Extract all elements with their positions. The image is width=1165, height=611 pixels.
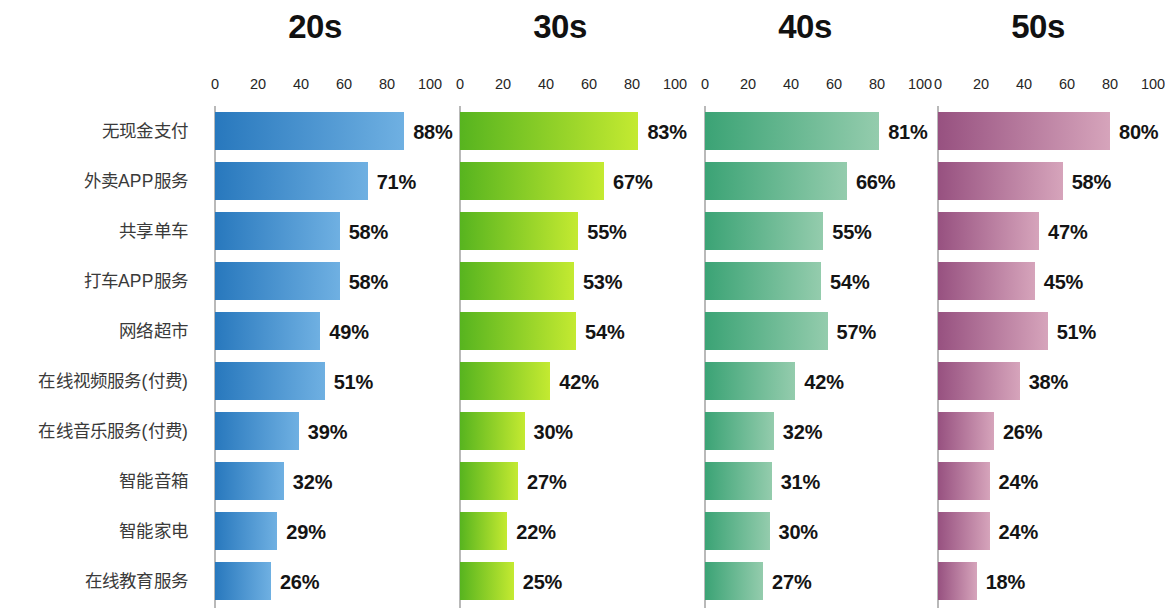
bar — [460, 162, 604, 200]
bar-value-label: 27% — [772, 571, 811, 594]
x-axis-tick: 80 — [379, 76, 395, 92]
bar — [705, 362, 795, 400]
x-axis-tick: 40 — [293, 76, 309, 92]
x-axis-tick: 80 — [1102, 76, 1118, 92]
panel-title-30s: 30s — [445, 8, 675, 46]
bar-value-label: 29% — [286, 521, 325, 544]
bar — [460, 512, 507, 550]
bar — [460, 112, 638, 150]
x-axis-tick: 40 — [783, 76, 799, 92]
bar — [215, 512, 277, 550]
age-group-panel-50s: 50s02040608010080%58%47%45%51%38%26%24%2… — [923, 0, 1158, 611]
bar — [705, 562, 763, 600]
bar-value-label: 30% — [534, 421, 573, 444]
bar-value-label: 54% — [830, 271, 869, 294]
category-label: 在线教育服务 — [0, 571, 188, 591]
bar — [215, 362, 325, 400]
bar — [705, 112, 879, 150]
bar-value-label: 83% — [647, 121, 686, 144]
age-group-panel-20s: 20s02040608010088%71%58%58%49%51%39%32%2… — [200, 0, 445, 611]
category-label: 在线音乐服务(付费) — [0, 421, 188, 441]
category-label: 在线视频服务(付费) — [0, 371, 188, 391]
x-axis-tick: 80 — [624, 76, 640, 92]
bar — [215, 162, 368, 200]
panel-title-20s: 20s — [200, 8, 430, 46]
bar-value-label: 24% — [999, 471, 1038, 494]
bar-value-label: 71% — [377, 171, 416, 194]
bar — [938, 562, 977, 600]
bar — [938, 412, 994, 450]
bar-value-label: 54% — [585, 321, 624, 344]
x-axis-tick: 80 — [869, 76, 885, 92]
category-label-column: 无现金支付外卖APP服务共享单车打车APP服务网络超市在线视频服务(付费)在线音… — [0, 0, 200, 611]
bar-value-label: 58% — [349, 271, 388, 294]
bar-value-label: 27% — [527, 471, 566, 494]
bar-value-label: 42% — [559, 371, 598, 394]
bar-value-label: 24% — [999, 521, 1038, 544]
bar-value-label: 39% — [308, 421, 347, 444]
x-axis-tick: 40 — [1016, 76, 1032, 92]
bar-value-label: 42% — [804, 371, 843, 394]
bar — [215, 562, 271, 600]
x-axis-30s: 020406080100 — [445, 76, 690, 96]
category-label: 打车APP服务 — [0, 271, 188, 291]
bar-value-label: 51% — [1057, 321, 1096, 344]
x-axis-tick: 20 — [740, 76, 756, 92]
bar-value-label: 66% — [856, 171, 895, 194]
bar — [938, 162, 1063, 200]
panel-title-50s: 50s — [923, 8, 1153, 46]
bar-value-label: 22% — [516, 521, 555, 544]
bar — [938, 362, 1020, 400]
bar-value-label: 57% — [837, 321, 876, 344]
bar — [705, 212, 823, 250]
age-group-panel-40s: 40s02040608010081%66%55%54%57%42%32%31%3… — [690, 0, 923, 611]
bar — [938, 212, 1039, 250]
bar — [938, 262, 1035, 300]
bar-value-label: 67% — [613, 171, 652, 194]
x-axis-tick: 0 — [934, 76, 942, 92]
x-axis-tick: 40 — [538, 76, 554, 92]
x-axis-tick: 60 — [1059, 76, 1075, 92]
age-group-panel-30s: 30s02040608010083%67%55%53%54%42%30%27%2… — [445, 0, 690, 611]
bar-value-label: 53% — [583, 271, 622, 294]
x-axis-tick: 100 — [418, 76, 442, 92]
bar — [215, 112, 404, 150]
x-axis-tick: 20 — [495, 76, 511, 92]
bar-value-label: 32% — [293, 471, 332, 494]
x-axis-tick: 100 — [1141, 76, 1165, 92]
category-label: 网络超市 — [0, 321, 188, 341]
bar-value-label: 51% — [334, 371, 373, 394]
x-axis-tick: 60 — [336, 76, 352, 92]
x-axis-tick: 20 — [250, 76, 266, 92]
bar-value-label: 55% — [832, 221, 871, 244]
bar-value-label: 25% — [523, 571, 562, 594]
bar-value-label: 38% — [1029, 371, 1068, 394]
category-label: 智能家电 — [0, 521, 188, 541]
bar-value-label: 26% — [280, 571, 319, 594]
bar-value-label: 81% — [888, 121, 927, 144]
bar — [705, 462, 772, 500]
bar — [938, 112, 1110, 150]
bar — [460, 412, 525, 450]
bar — [460, 262, 574, 300]
x-axis-tick: 60 — [581, 76, 597, 92]
bar-value-label: 47% — [1048, 221, 1087, 244]
category-label: 智能音箱 — [0, 471, 188, 491]
bar — [460, 362, 550, 400]
x-axis-50s: 020406080100 — [923, 76, 1158, 96]
bar — [705, 162, 847, 200]
bar — [705, 512, 770, 550]
x-axis-tick: 0 — [456, 76, 464, 92]
bar — [215, 212, 340, 250]
bar — [938, 312, 1048, 350]
bar — [460, 212, 578, 250]
panel-title-40s: 40s — [690, 8, 920, 46]
bar-value-label: 32% — [783, 421, 822, 444]
bar — [215, 412, 299, 450]
bar-value-label: 18% — [986, 571, 1025, 594]
x-axis-tick: 60 — [826, 76, 842, 92]
bar-value-label: 55% — [587, 221, 626, 244]
x-axis-40s: 020406080100 — [690, 76, 923, 96]
bar — [215, 312, 320, 350]
